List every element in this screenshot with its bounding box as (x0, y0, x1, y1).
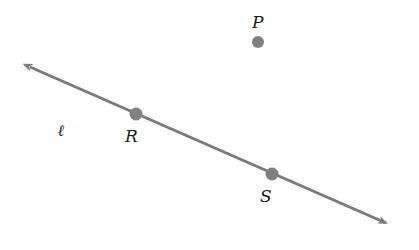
line-l (30, 67, 386, 223)
point-s-label: S (260, 186, 272, 206)
point-r-label: R (124, 126, 138, 146)
point-r (130, 108, 143, 121)
point-p-label: P (251, 12, 264, 32)
geometry-diagram: P R S ℓ (0, 0, 419, 250)
point-p (252, 36, 264, 48)
line-l-label: ℓ (57, 121, 65, 140)
point-s (266, 168, 279, 181)
